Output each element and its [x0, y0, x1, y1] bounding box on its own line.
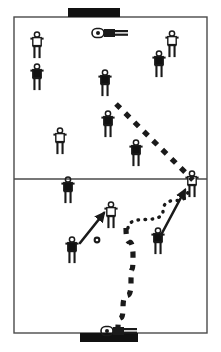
- player-leg-left: [154, 243, 156, 255]
- player-leg-left: [168, 46, 170, 58]
- player-leg-right: [74, 252, 76, 264]
- player-leg-left: [33, 47, 35, 59]
- player-leg-left: [104, 126, 106, 138]
- player-leg-right: [174, 46, 176, 58]
- player-torso: [68, 243, 76, 251]
- player-torso: [168, 37, 176, 45]
- diagram-canvas: [0, 0, 221, 352]
- player-leg-left: [64, 192, 66, 204]
- player-leg-right: [107, 85, 109, 97]
- player-leg-right: [62, 143, 64, 155]
- player-torso: [33, 70, 41, 78]
- player-torso: [104, 117, 112, 125]
- player-leg-right: [110, 126, 112, 138]
- player-leg-right: [70, 192, 72, 204]
- player-leg-right: [161, 66, 163, 78]
- player-leg-right: [39, 47, 41, 59]
- top-goal: [68, 8, 120, 17]
- player-leg-right: [113, 217, 115, 229]
- bottom-goal: [80, 333, 138, 342]
- keeper-leg-lower: [124, 332, 137, 334]
- player-torso: [33, 38, 41, 46]
- player-torso: [155, 57, 163, 65]
- player-torso: [132, 146, 140, 154]
- keeper-leg-upper: [115, 30, 128, 32]
- player-leg-left: [68, 252, 70, 264]
- player-leg-left: [101, 85, 103, 97]
- player-leg-left: [33, 79, 35, 91]
- pitch-diagram: [0, 0, 221, 352]
- player-torso: [101, 76, 109, 84]
- field-outline: [14, 17, 207, 333]
- keeper-leg-upper: [124, 328, 137, 330]
- keeper-leg-lower: [115, 34, 128, 36]
- player-torso: [56, 134, 64, 142]
- player-torso: [64, 183, 72, 191]
- player-leg-right: [39, 79, 41, 91]
- keeper-face: [105, 329, 109, 333]
- player-leg-left: [107, 217, 109, 229]
- player-leg-left: [132, 155, 134, 167]
- player-leg-right: [138, 155, 140, 167]
- keeper-face: [96, 31, 100, 35]
- ball-highlight: [96, 239, 99, 242]
- player-torso: [107, 208, 115, 216]
- keeper-torso: [113, 327, 124, 335]
- keeper-torso: [104, 29, 115, 37]
- player-leg-right: [194, 186, 196, 198]
- player-leg-left: [155, 66, 157, 78]
- player-leg-left: [56, 143, 58, 155]
- player-leg-right: [160, 243, 162, 255]
